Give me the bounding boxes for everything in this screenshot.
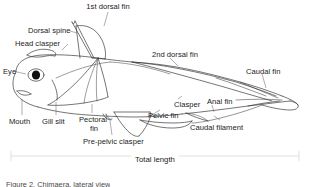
label-pre-pelvic-clasper: Pre-pelvic clasper	[83, 137, 144, 146]
leader-pre-pelvic-clasper	[110, 121, 112, 135]
label-caudal-filament: Caudal filament	[190, 123, 243, 132]
label-dorsal-spine: Dorsal spine	[28, 26, 70, 35]
label-pelvic-fin: Pelvic fin	[148, 111, 179, 120]
label-pectoral-fin: Pectoral	[79, 115, 107, 124]
total-length-label: Total length	[131, 155, 179, 164]
leader-eye	[17, 72, 26, 74]
leader-first-dorsal-fin	[104, 12, 108, 26]
label-eye: Eye	[3, 67, 16, 76]
label-gill-slit: Gill slit	[42, 117, 65, 126]
label-clasper: Clasper	[174, 100, 200, 109]
label-caudal-fin: Caudal fin	[246, 67, 280, 76]
leader-head-clasper	[62, 44, 68, 50]
label-second-dorsal-fin: 2nd dorsal fin	[152, 50, 198, 59]
label-first-dorsal-fin: 1st dorsal fin	[86, 2, 129, 11]
label-mouth: Mouth	[9, 117, 30, 126]
figure-caption: Figure 2. Chimaera, lateral view	[6, 180, 110, 187]
leader-clasper	[178, 96, 182, 99]
leader-caudal-fin	[262, 74, 266, 88]
label-head-clasper: Head clasper	[15, 39, 60, 48]
label-pectoral-fin-line2: fin	[90, 124, 98, 133]
label-anal-fin: Anal fin	[207, 97, 233, 106]
leader-dorsal-spine	[70, 31, 77, 33]
leader-second-dorsal-fin	[170, 58, 178, 66]
